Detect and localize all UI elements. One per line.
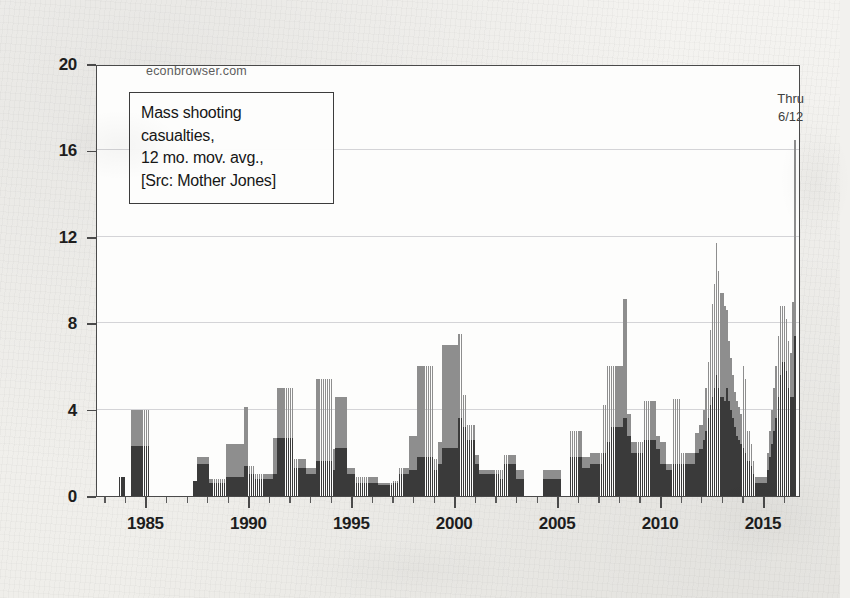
y-tick-mark-12 xyxy=(87,237,96,239)
x-tick-label-2005: 2005 xyxy=(539,514,576,534)
bar-segment-injuries xyxy=(794,140,796,337)
x-tick-minor-2009 xyxy=(639,497,640,503)
x-tick-label-2010: 2010 xyxy=(642,514,679,534)
x-tick-minor-2004 xyxy=(537,497,538,503)
bar xyxy=(559,470,561,496)
watermark-econbrowser: econbrowser.com xyxy=(146,64,247,78)
y-tick-label-16: 16 xyxy=(59,141,77,161)
x-tick-minor-2008 xyxy=(619,497,620,503)
x-tick-minor-2012 xyxy=(701,497,702,503)
annotation-line-2: casualties, xyxy=(141,125,322,148)
x-tick-minor-1998 xyxy=(413,497,414,503)
x-tick-minor-1991 xyxy=(269,497,270,503)
y-tick-label-8: 8 xyxy=(68,314,77,334)
bar-segment-injuries xyxy=(753,461,755,474)
bar-segment-injuries xyxy=(514,455,516,464)
bar-segment-injuries xyxy=(629,414,631,436)
x-tick-minor-2002 xyxy=(495,497,496,503)
x-tick-minor-1993 xyxy=(310,497,311,503)
annotation-line-4: [Src: Mother Jones] xyxy=(141,170,322,193)
bar xyxy=(123,477,125,496)
thru-note-line-2: 6/12 xyxy=(777,108,804,126)
x-tick-label-1985: 1985 xyxy=(127,514,164,534)
bar-segment-injuries xyxy=(304,459,306,468)
x-tick-minor-1989 xyxy=(228,497,229,503)
y-tick-label-20: 20 xyxy=(59,55,77,75)
x-tick-label-1990: 1990 xyxy=(230,514,267,534)
y-tick-mark-4 xyxy=(87,410,96,412)
y-tick-label-0: 0 xyxy=(68,487,77,507)
x-tick-minor-1983 xyxy=(104,497,105,503)
bar-segment-fatalities xyxy=(123,477,125,496)
x-tick-minor-1986 xyxy=(166,497,167,503)
y-tick-label-12: 12 xyxy=(59,228,77,248)
bar-segment-injuries xyxy=(345,397,347,449)
x-tick-minor-1994 xyxy=(331,497,332,503)
y-tick-mark-16 xyxy=(87,151,96,153)
x-tick-major-2015 xyxy=(763,497,765,508)
bar-segment-injuries xyxy=(625,299,627,418)
x-tick-major-1990 xyxy=(248,497,250,508)
x-tick-major-1995 xyxy=(351,497,353,508)
annotation-box: Mass shooting casualties, 12 mo. mov. av… xyxy=(129,92,334,204)
bar-segment-injuries xyxy=(465,395,467,427)
x-tick-minor-1997 xyxy=(392,497,393,503)
x-tick-minor-2011 xyxy=(681,497,682,503)
bar xyxy=(148,410,150,496)
x-tick-minor-2016 xyxy=(784,497,785,503)
bar-segment-injuries xyxy=(654,401,656,440)
bar-segment-injuries xyxy=(473,425,475,440)
bar-segment-fatalities xyxy=(148,446,150,496)
x-tick-minor-2014 xyxy=(742,497,743,503)
x-tick-minor-2007 xyxy=(598,497,599,503)
x-tick-major-2005 xyxy=(557,497,559,508)
x-tick-minor-2013 xyxy=(722,497,723,503)
thru-note-line-1: Thru xyxy=(777,90,804,108)
annotation-line-1: Mass shooting xyxy=(141,102,322,125)
bar-segment-fatalities xyxy=(794,336,796,496)
bar-segment-injuries xyxy=(522,470,524,479)
y-tick-mark-8 xyxy=(87,323,96,325)
bar-segment-injuries xyxy=(292,388,294,438)
bar xyxy=(794,140,796,496)
x-tick-major-2000 xyxy=(454,497,456,508)
bar-segment-injuries xyxy=(580,431,582,457)
x-tick-label-2000: 2000 xyxy=(436,514,473,534)
bar-segment-injuries xyxy=(253,466,255,475)
y-tick-mark-20 xyxy=(87,64,96,66)
bar-segment-injuries xyxy=(432,366,434,457)
x-tick-minor-1984 xyxy=(125,497,126,503)
x-tick-minor-1999 xyxy=(434,497,435,503)
x-tick-major-1985 xyxy=(145,497,147,508)
x-tick-minor-1992 xyxy=(289,497,290,503)
bar-segment-injuries xyxy=(246,407,248,465)
x-tick-minor-1988 xyxy=(207,497,208,503)
x-tick-minor-2006 xyxy=(578,497,579,503)
x-tick-minor-1987 xyxy=(187,497,188,503)
bar-segment-injuries xyxy=(148,410,150,447)
x-tick-minor-2003 xyxy=(516,497,517,503)
annotation-line-3: 12 mo. mov. avg., xyxy=(141,147,322,170)
bar xyxy=(522,470,524,496)
bar-segment-injuries xyxy=(664,442,666,464)
bar-segment-injuries xyxy=(477,455,479,464)
bar-segment-fatalities xyxy=(559,479,561,496)
thru-note: Thru 6/12 xyxy=(777,90,804,126)
x-tick-label-2015: 2015 xyxy=(745,514,782,534)
bar-segment-fatalities xyxy=(522,479,524,496)
bar-segment-injuries xyxy=(559,470,561,479)
x-tick-major-2010 xyxy=(660,497,662,508)
scan-smudge-2 xyxy=(300,540,520,598)
x-tick-minor-1996 xyxy=(372,497,373,503)
x-tick-label-1995: 1995 xyxy=(333,514,370,534)
x-tick-minor-2001 xyxy=(475,497,476,503)
y-tick-mark-0 xyxy=(87,496,96,498)
y-tick-label-4: 4 xyxy=(68,401,77,421)
